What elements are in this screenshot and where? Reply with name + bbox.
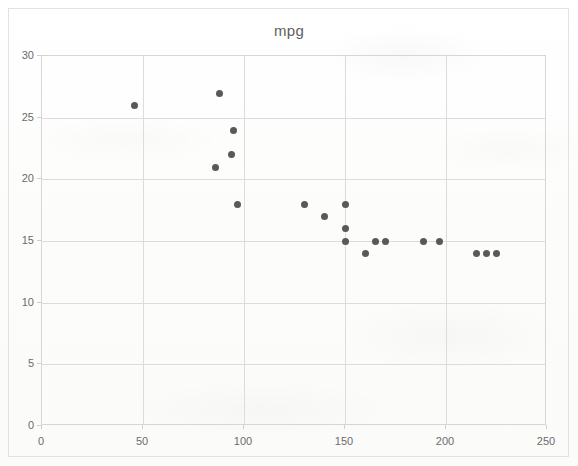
x-tick-label-250: 250 bbox=[537, 435, 555, 447]
y-tick-label-5: 5 bbox=[6, 357, 34, 369]
gridline-x-200 bbox=[446, 56, 447, 424]
y-tick-label-0: 0 bbox=[6, 419, 34, 431]
gridline-x-50 bbox=[143, 56, 144, 424]
x-tick-mark-150 bbox=[344, 425, 345, 429]
x-tick-label-200: 200 bbox=[436, 435, 454, 447]
x-tick-mark-0 bbox=[41, 425, 42, 429]
scatter-point[interactable] bbox=[212, 164, 219, 171]
y-tick-mark-10 bbox=[37, 302, 41, 303]
y-tick-label-20: 20 bbox=[6, 172, 34, 184]
scatter-point[interactable] bbox=[473, 250, 480, 257]
scatter-point[interactable] bbox=[216, 90, 223, 97]
scatter-point[interactable] bbox=[342, 201, 349, 208]
y-tick-mark-15 bbox=[37, 240, 41, 241]
scatter-point[interactable] bbox=[321, 213, 328, 220]
scatter-point[interactable] bbox=[420, 238, 427, 245]
x-tick-mark-200 bbox=[445, 425, 446, 429]
scatter-point[interactable] bbox=[362, 250, 369, 257]
chart-card: mpg 051015202530 050100150200250 bbox=[0, 0, 578, 466]
scatter-point[interactable] bbox=[493, 250, 500, 257]
y-tick-mark-25 bbox=[37, 117, 41, 118]
x-tick-label-50: 50 bbox=[136, 435, 148, 447]
x-tick-label-0: 0 bbox=[38, 435, 44, 447]
y-tick-label-25: 25 bbox=[6, 111, 34, 123]
y-tick-label-15: 15 bbox=[6, 234, 34, 246]
scatter-point[interactable] bbox=[483, 250, 490, 257]
x-tick-mark-50 bbox=[142, 425, 143, 429]
scatter-point[interactable] bbox=[301, 201, 308, 208]
scatter-point[interactable] bbox=[372, 238, 379, 245]
scatter-point[interactable] bbox=[228, 151, 235, 158]
scatter-point[interactable] bbox=[131, 102, 138, 109]
scatter-point[interactable] bbox=[342, 225, 349, 232]
gridline-y-5 bbox=[42, 364, 545, 365]
gridline-x-100 bbox=[244, 56, 245, 424]
x-tick-mark-100 bbox=[243, 425, 244, 429]
scatter-point[interactable] bbox=[234, 201, 241, 208]
y-tick-label-10: 10 bbox=[6, 296, 34, 308]
x-tick-mark-250 bbox=[546, 425, 547, 429]
scatter-point[interactable] bbox=[230, 127, 237, 134]
plot-area bbox=[41, 55, 546, 425]
x-tick-label-150: 150 bbox=[335, 435, 353, 447]
y-tick-label-30: 30 bbox=[6, 49, 34, 61]
gridline-y-25 bbox=[42, 118, 545, 119]
y-tick-mark-30 bbox=[37, 55, 41, 56]
x-tick-label-100: 100 bbox=[234, 435, 252, 447]
gridline-y-20 bbox=[42, 179, 545, 180]
scatter-point[interactable] bbox=[342, 238, 349, 245]
chart-title: mpg bbox=[0, 22, 578, 39]
scatter-point[interactable] bbox=[382, 238, 389, 245]
gridline-y-10 bbox=[42, 303, 545, 304]
y-tick-mark-5 bbox=[37, 363, 41, 364]
gridline-y-15 bbox=[42, 241, 545, 242]
scatter-point[interactable] bbox=[436, 238, 443, 245]
y-tick-mark-20 bbox=[37, 178, 41, 179]
